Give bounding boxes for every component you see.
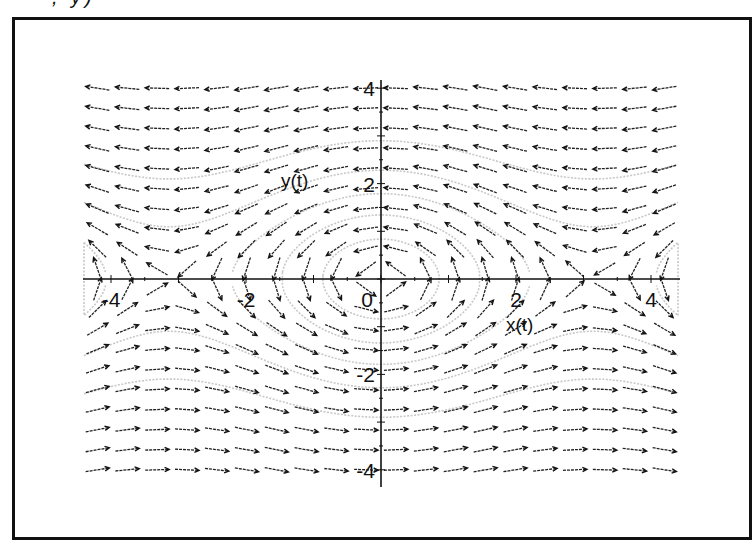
direction-arrow <box>447 301 464 318</box>
direction-arrow <box>303 278 311 301</box>
direction-arrow <box>354 409 378 410</box>
direction-arrow <box>594 263 615 275</box>
x-tick-label: 4 <box>645 288 657 311</box>
direction-arrow <box>534 224 556 234</box>
direction-arrow <box>452 258 460 281</box>
x-tick-label: -4 <box>102 288 121 311</box>
direction-arrow <box>477 300 493 318</box>
direction-arrow <box>117 242 137 255</box>
direction-arrow <box>477 240 493 258</box>
direction-arrow <box>175 449 199 450</box>
direction-arrow <box>243 258 250 281</box>
direction-arrow <box>653 185 676 192</box>
direction-arrow <box>563 449 587 450</box>
axes <box>83 80 680 487</box>
direction-arrow <box>147 263 168 275</box>
direction-arrow <box>452 278 460 301</box>
direction-arrow <box>623 325 645 334</box>
direction-arrow <box>122 278 133 299</box>
direction-arrow <box>175 469 199 470</box>
direction-arrow <box>540 258 550 280</box>
direction-arrow <box>386 282 405 296</box>
direction-arrow <box>116 224 138 233</box>
arrow-head <box>266 210 271 214</box>
direction-arrow <box>356 262 375 276</box>
direction-arrow <box>386 262 405 276</box>
direction-arrow <box>384 108 408 109</box>
direction-arrow <box>236 223 256 236</box>
arrow-head <box>491 344 496 348</box>
direction-arrow <box>212 258 222 280</box>
arrow-head <box>223 330 228 334</box>
direction-arrow <box>269 300 285 318</box>
direction-arrow <box>421 258 431 280</box>
direction-arrow <box>267 222 287 235</box>
direction-arrow <box>625 242 645 255</box>
direction-arrow <box>623 224 645 233</box>
direction-arrow <box>266 344 288 354</box>
direction-arrow <box>593 409 617 410</box>
arrow-head <box>338 295 342 300</box>
direction-arrow <box>331 258 341 280</box>
direction-arrow <box>475 222 495 235</box>
direction-arrow <box>145 389 169 390</box>
direction-arrow <box>566 281 584 297</box>
direction-arrow <box>653 366 676 373</box>
y-tick-label: 2 <box>363 173 375 196</box>
direction-arrow <box>145 449 169 450</box>
direction-arrow <box>86 366 109 373</box>
direction-arrow <box>445 323 466 335</box>
direction-arrow <box>145 469 169 470</box>
direction-arrow <box>512 258 519 281</box>
arrow-head <box>206 230 211 234</box>
direction-arrow <box>593 88 617 89</box>
direction-arrow <box>474 184 496 192</box>
direction-arrow <box>629 278 640 299</box>
direction-arrow <box>145 148 169 149</box>
direction-arrow <box>415 325 437 334</box>
direction-arrow <box>295 204 317 213</box>
direction-arrow <box>563 88 587 89</box>
direction-arrow <box>593 148 617 149</box>
direction-arrow <box>178 261 196 277</box>
direction-arrow <box>116 325 138 334</box>
trajectory-curve <box>84 243 106 273</box>
direction-arrow <box>145 429 169 430</box>
direction-arrow <box>563 108 587 109</box>
direction-arrow <box>384 409 408 410</box>
direction-arrow <box>235 366 258 374</box>
direction-arrow <box>175 108 199 109</box>
direction-arrow <box>384 469 408 470</box>
arrow-head <box>504 204 509 208</box>
direction-arrow <box>303 258 311 281</box>
direction-arrow <box>331 278 341 300</box>
direction-arrow <box>298 301 315 318</box>
direction-arrow <box>145 128 169 129</box>
direction-arrow <box>653 345 675 354</box>
direction-arrow <box>175 88 199 89</box>
y-axis-label: y(t) <box>281 170 308 191</box>
direction-arrow <box>661 278 669 301</box>
direction-arrow <box>629 258 640 279</box>
direction-arrow <box>593 108 617 109</box>
y-tick-label: -4 <box>356 459 375 482</box>
x-tick-label: 0 <box>361 288 373 311</box>
direction-arrow <box>145 168 169 169</box>
direction-arrow <box>354 429 378 430</box>
direction-arrow <box>505 223 525 236</box>
arrow-head <box>534 224 539 228</box>
direction-arrow <box>269 240 285 258</box>
direction-arrow <box>298 240 315 257</box>
direction-arrow <box>354 148 378 149</box>
x-axis-label: x(t) <box>506 314 533 335</box>
direction-arrow <box>207 242 226 256</box>
direction-arrow <box>534 324 556 334</box>
direction-arrow <box>295 366 318 374</box>
direction-arrow <box>147 283 168 295</box>
direction-arrow <box>475 204 497 214</box>
direction-arrow <box>212 278 222 300</box>
direction-arrow <box>566 261 584 277</box>
direction-arrow <box>654 323 675 335</box>
direction-arrow <box>178 281 196 297</box>
direction-arrow <box>475 344 497 354</box>
